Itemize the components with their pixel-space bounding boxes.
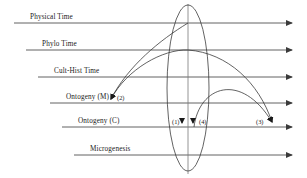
center-down-arrows <box>182 118 193 123</box>
marker-label-3: (3) <box>256 118 263 125</box>
arc-to-ontogeny-c-right-outer <box>188 50 272 122</box>
diagram-canvas <box>0 0 307 178</box>
connector-arcs <box>111 23 272 127</box>
timeline-label-ontogeny-m: Ontogeny (M) <box>66 93 109 101</box>
marker-label-2: (2) <box>117 94 124 101</box>
marker-label-1: (1) <box>172 118 179 125</box>
arc-to-ontogeny-m-inner <box>111 50 188 99</box>
timeline-label-physical-time: Physical Time <box>30 13 73 21</box>
marker-label-4: (4) <box>199 118 206 125</box>
timeline-label-microgenesis: Microgenesis <box>90 145 131 153</box>
timeline-label-ontogeny-c: Ontogeny (C) <box>78 117 120 125</box>
timeline-label-phylo-time: Phylo Time <box>42 40 77 48</box>
timeline-label-cult-hist-time: Cult-Hist Time <box>54 67 99 75</box>
timeline-diagram: Physical Time Phylo Time Cult-Hist Time … <box>0 0 307 178</box>
